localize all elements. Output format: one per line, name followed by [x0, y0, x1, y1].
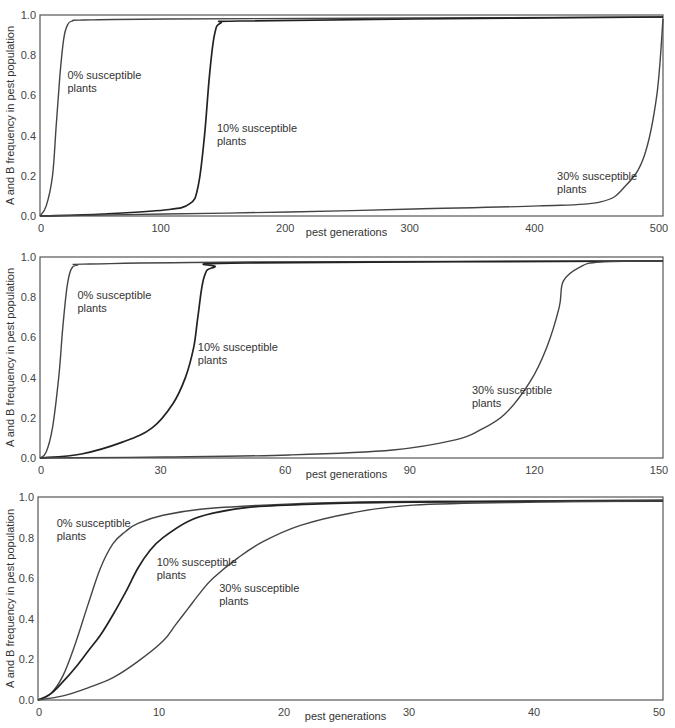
y-tick-label: 0.2: [21, 412, 36, 424]
plot-frame: [40, 257, 663, 458]
x-tick-label: 40: [528, 706, 540, 718]
y-tick-label: 0.2: [21, 170, 36, 182]
y-tick-label: 0.4: [21, 130, 36, 142]
curve-0pct-susceptible: [38, 500, 663, 700]
y-tick-label: 0.8: [19, 532, 34, 544]
y-tick-label: 0.4: [19, 613, 34, 625]
x-tick-label: 100: [151, 222, 169, 234]
x-tick-label: 500: [650, 222, 668, 234]
y-tick-label: 0.6: [21, 331, 36, 343]
x-tick-label: 200: [276, 222, 294, 234]
curve-annotation: 30% susceptibleplants: [472, 384, 552, 409]
x-tick-label: 0: [38, 222, 44, 234]
x-axis-label: pest generations: [306, 468, 388, 480]
curve-annotation: 0% susceptibleplants: [67, 69, 141, 94]
chart-1: 0.00.20.40.60.81.00100200300400500pest g…: [4, 9, 668, 238]
x-tick-label: 30: [154, 464, 166, 476]
x-tick-label: 300: [401, 222, 419, 234]
x-axis-label: pest generations: [305, 710, 387, 722]
curve-30pct-susceptible: [38, 501, 663, 700]
curve-annotation: 30% susceptibleplants: [219, 582, 299, 607]
curve-annotation: 10% susceptibleplants: [198, 341, 278, 366]
y-axis-label: A and B frequency in pest population: [4, 509, 16, 688]
y-tick-label: 0.2: [19, 653, 34, 665]
y-tick-label: 0.6: [21, 89, 36, 101]
x-axis-label: pest generations: [306, 226, 388, 238]
curve-10pct-susceptible: [38, 501, 663, 700]
x-tick-label: 0: [38, 464, 44, 476]
x-tick-label: 30: [403, 706, 415, 718]
x-tick-label: 60: [279, 464, 291, 476]
chart-3: 0.00.20.40.60.81.001020304050pest genera…: [4, 491, 665, 722]
x-tick-label: 90: [404, 464, 416, 476]
curve-annotation: 0% susceptibleplants: [57, 517, 131, 542]
y-tick-label: 0.6: [19, 572, 34, 584]
chart-2: 0.00.20.40.60.81.00306090120150pest gene…: [4, 251, 668, 480]
x-tick-label: 20: [278, 706, 290, 718]
curve-annotation: 30% susceptibleplants: [557, 170, 637, 195]
x-tick-label: 0: [36, 706, 42, 718]
y-tick-label: 0.0: [21, 452, 36, 464]
y-axis-label: A and B frequency in pest population: [4, 26, 16, 205]
y-tick-label: 0.4: [21, 372, 36, 384]
y-axis-label: A and B frequency in pest population: [4, 268, 16, 447]
x-tick-label: 150: [650, 464, 668, 476]
y-tick-label: 1.0: [21, 251, 36, 263]
curve-annotation: 10% susceptibleplants: [217, 122, 297, 147]
resistance-frequency-charts: 0.00.20.40.60.81.00100200300400500pest g…: [0, 0, 675, 728]
x-tick-label: 400: [525, 222, 543, 234]
x-tick-label: 50: [653, 706, 665, 718]
curve-annotation: 0% susceptibleplants: [77, 289, 151, 314]
y-tick-label: 0.8: [21, 291, 36, 303]
y-tick-label: 1.0: [21, 9, 36, 21]
x-tick-label: 10: [153, 706, 165, 718]
y-tick-label: 0.0: [19, 694, 34, 706]
x-tick-label: 120: [525, 464, 543, 476]
y-tick-label: 0.0: [21, 210, 36, 222]
y-tick-label: 1.0: [19, 491, 34, 503]
y-tick-label: 0.8: [21, 49, 36, 61]
